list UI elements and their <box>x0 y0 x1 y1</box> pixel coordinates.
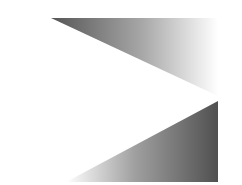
graphic-canvas <box>0 0 242 185</box>
lower-gradient-triangle <box>66 101 218 182</box>
upper-gradient-triangle <box>51 18 218 96</box>
